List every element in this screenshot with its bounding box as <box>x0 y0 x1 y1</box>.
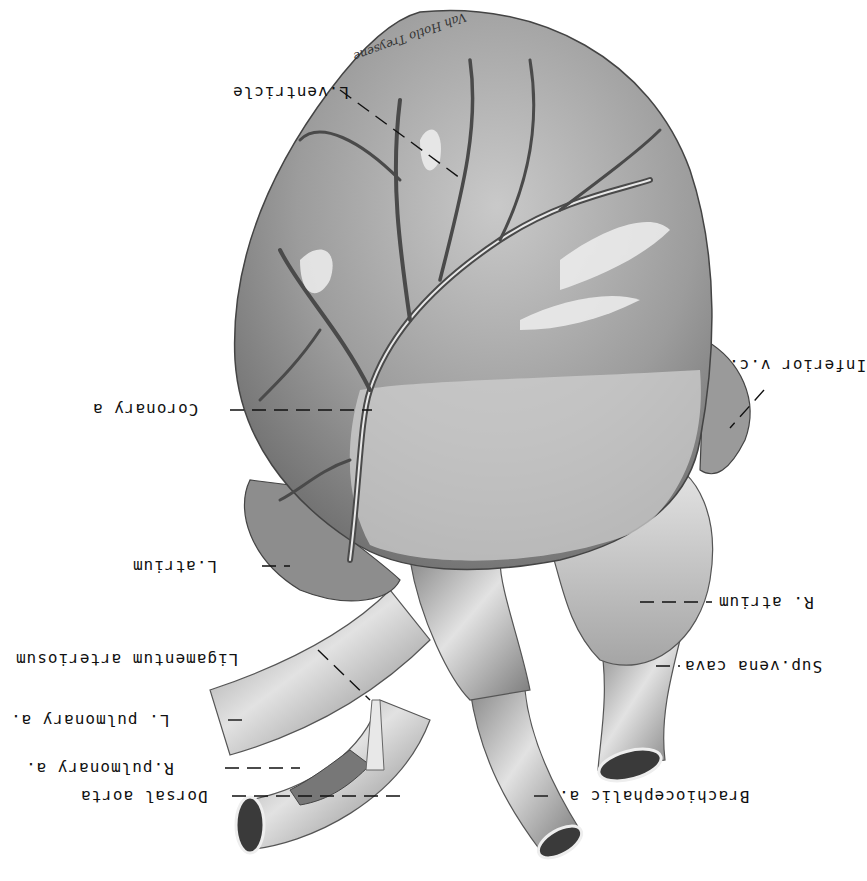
label-ligamentum-arteriosum: Ligamentum arteriosum <box>15 650 238 668</box>
label-l-atrium: L.atrium <box>132 557 217 575</box>
label-brachiocephalic-a: Brachiocephalic a. <box>558 787 749 805</box>
label-inferior-vc: Inferior v.c. <box>728 356 866 374</box>
label-l-ventricle: L.ventricle <box>232 83 349 101</box>
label-dorsal-aorta: Dorsal aorta <box>80 787 208 805</box>
label-sup-vena-cava: Sup.vena cava <box>684 657 822 675</box>
label-coronary-a: Coronary a <box>92 400 198 418</box>
label-r-pulmonary-a: R.pulmonary a. <box>25 759 174 777</box>
label-r-atrium: R. atrium <box>718 593 814 611</box>
label-l-pulmonary-a: L. pulmonary a. <box>10 711 170 729</box>
heart-illustration: Vah Hotlo Treysene L.ventricle Coronary … <box>0 0 867 881</box>
heart-drawing <box>0 0 867 881</box>
